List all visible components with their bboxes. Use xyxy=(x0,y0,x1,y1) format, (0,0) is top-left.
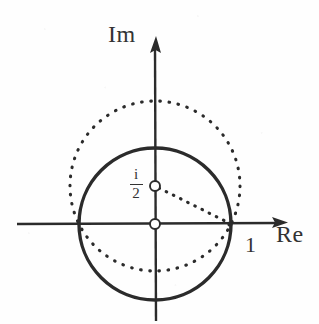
half-i-marker xyxy=(150,181,160,191)
imaginary-axis xyxy=(150,36,161,321)
point-one-marker xyxy=(227,221,232,226)
half-i-denominator: 2 xyxy=(126,186,146,202)
radius-segment xyxy=(159,188,229,223)
figure-canvas xyxy=(0,0,319,324)
half-i-numerator: i xyxy=(126,167,146,183)
half-i-label: i 2 xyxy=(126,167,146,202)
real-axis-label: Re xyxy=(276,222,304,246)
imaginary-axis-label: Im xyxy=(108,22,136,46)
origin-marker xyxy=(150,219,160,229)
complex-plane-figure: Im Re 1 i 2 xyxy=(0,0,319,324)
tick-label-one: 1 xyxy=(245,234,257,256)
